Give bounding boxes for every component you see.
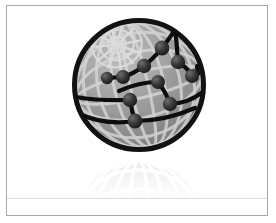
network-node: [116, 70, 130, 84]
image-canvas: [0, 0, 276, 223]
network-node: [101, 72, 113, 84]
network-node: [123, 93, 137, 107]
network-node: [185, 69, 199, 83]
network-node: [128, 114, 143, 129]
network-node: [171, 55, 185, 69]
network-node: [137, 59, 151, 73]
network-node: [163, 97, 177, 111]
network-node: [151, 75, 165, 89]
network-node: [155, 41, 170, 56]
globe-reflection: [75, 161, 203, 223]
reflection-floor-line: [7, 198, 267, 199]
globe-svg: [0, 0, 276, 223]
globe-artwork: [0, 0, 276, 223]
